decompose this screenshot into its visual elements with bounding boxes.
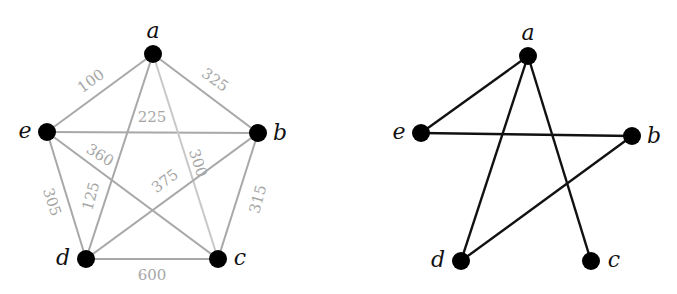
node-c-label: c (234, 245, 246, 270)
node-e-dot (412, 124, 430, 142)
edge-weight-e-d: 305 (39, 186, 65, 219)
node-d-label: d (56, 245, 70, 270)
edge-a-e (421, 56, 528, 133)
left-nodes: abcde (18, 18, 287, 270)
node-c-dot (209, 250, 227, 268)
node-a-label: a (521, 20, 534, 45)
spanning-path-graph: abcde (392, 20, 661, 272)
node-a-dot (144, 45, 162, 63)
edge-e-b (47, 132, 258, 133)
right-nodes: abcde (392, 20, 661, 272)
edge-e-b (421, 133, 632, 136)
node-d-dot (452, 252, 470, 270)
node-b-label: b (273, 120, 287, 145)
node-d-label: d (431, 247, 445, 272)
node-e-label: e (392, 119, 405, 144)
node-e-label: e (18, 118, 31, 143)
edge-a-c (528, 56, 591, 261)
edge-weight-d-c: 600 (138, 266, 167, 284)
node-a-dot (519, 47, 537, 65)
node-d-dot (77, 250, 95, 268)
graph-diagram: 100325225300360375305125315600 abcde abc… (0, 0, 677, 294)
edge-b-d (461, 136, 632, 261)
node-b-label: b (647, 123, 661, 148)
edge-weight-e-c: 360 (83, 140, 117, 170)
edge-weight-e-b: 225 (138, 108, 167, 126)
node-c-dot (582, 252, 600, 270)
edge-a-d (461, 56, 528, 261)
edge-weight-b-c: 315 (246, 183, 271, 215)
edge-weight-a-d: 125 (79, 180, 104, 212)
node-a-label: a (146, 18, 159, 43)
edge-a-b (153, 54, 258, 133)
node-e-dot (38, 123, 56, 141)
edge-weight-a-c: 300 (185, 147, 211, 180)
node-b-dot (249, 124, 267, 142)
right-edges (421, 56, 632, 261)
node-c-label: c (608, 247, 620, 272)
weighted-complete-graph: 100325225300360375305125315600 abcde (18, 18, 287, 284)
node-b-dot (623, 127, 641, 145)
